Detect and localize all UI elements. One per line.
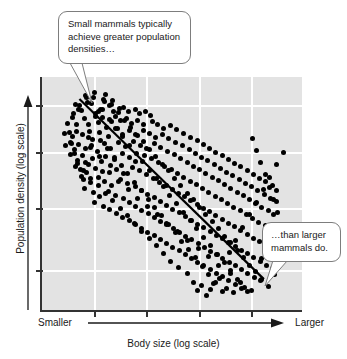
chart-figure: Population density (log scale) Smaller L… xyxy=(0,0,347,359)
x-axis-high-label: Larger xyxy=(295,316,324,330)
callout-small-mammals: Small mammals typically achieve greater … xyxy=(58,11,191,64)
callout-larger-mammals: …than larger mammals do. xyxy=(262,222,341,262)
x-axis-arrow-icon xyxy=(88,316,284,330)
x-axis-title: Body size (log scale) xyxy=(0,338,347,349)
x-axis: Smaller Larger xyxy=(34,316,324,332)
x-axis-low-label: Smaller xyxy=(38,316,72,330)
y-axis: Population density (log scale) xyxy=(0,95,34,310)
y-axis-title: Population density (log scale) xyxy=(15,91,26,287)
